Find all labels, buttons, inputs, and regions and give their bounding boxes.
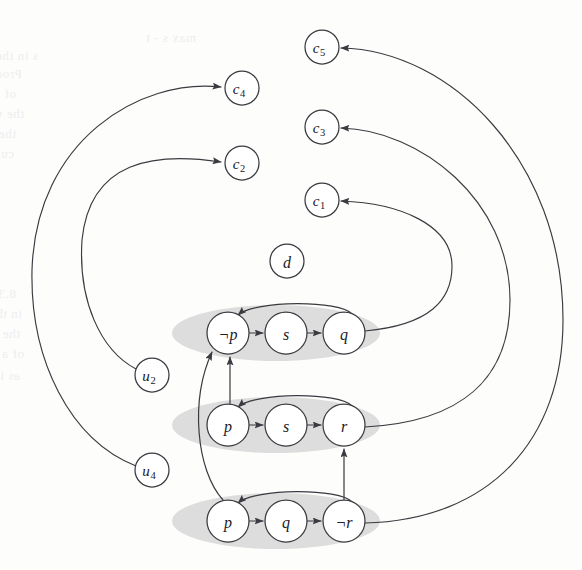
node-label-d: d — [283, 254, 292, 271]
node-label-subscript-c3: 3 — [320, 127, 325, 138]
node-n3b[interactable]: q — [265, 500, 307, 542]
edge-n2c-to-c3 — [341, 128, 510, 427]
node-c1[interactable]: c1 — [305, 183, 339, 217]
node-c4[interactable]: c4 — [225, 71, 259, 105]
node-c2[interactable]: c2 — [225, 146, 259, 180]
node-label-n3a: p — [223, 514, 232, 532]
node-u2[interactable]: u2 — [135, 358, 169, 392]
node-n1c[interactable]: q — [323, 312, 365, 354]
node-label-subscript-u4: 4 — [150, 470, 156, 481]
node-n3a[interactable]: p — [207, 500, 249, 542]
node-label-base-c2: c — [233, 156, 240, 172]
node-label-base-n1c: q — [340, 326, 348, 344]
node-n2c[interactable]: r — [323, 404, 365, 446]
graph-canvas: c5c3c1c4c2du2u4¬psqpsrpq¬r — [0, 0, 582, 570]
node-label-base-u2: u — [142, 368, 150, 384]
node-d[interactable]: d — [270, 244, 304, 278]
node-label-base-n3c: ¬r — [335, 514, 353, 531]
node-n3c[interactable]: ¬r — [323, 500, 365, 542]
node-label-subscript-c4: 4 — [240, 88, 246, 99]
node-n1b[interactable]: s — [265, 312, 307, 354]
node-c3[interactable]: c3 — [305, 110, 339, 144]
node-label-n2a: p — [223, 418, 232, 436]
node-label-subscript-c2: 2 — [240, 163, 245, 174]
node-label-n3b: q — [282, 514, 290, 532]
node-n2a[interactable]: p — [207, 404, 249, 446]
node-label-base-n3b: q — [282, 514, 290, 532]
node-label-base-c4: c — [233, 81, 240, 97]
node-n2b[interactable]: s — [265, 404, 307, 446]
node-c5[interactable]: c5 — [305, 30, 339, 64]
node-label-n2b: s — [283, 418, 289, 435]
node-label-base-c1: c — [313, 193, 320, 209]
graph-figure: max s - ts in the in flowProof. The to b… — [0, 0, 582, 570]
node-label-base-n2c: r — [341, 418, 348, 435]
edge-n3c-to-c5 — [341, 48, 563, 523]
edge-n1c-to-c1 — [341, 201, 452, 331]
node-label-base-n2a: p — [223, 418, 232, 436]
node-label-base-c3: c — [313, 120, 320, 136]
node-label-subscript-c1: 1 — [320, 200, 325, 211]
node-layer: c5c3c1c4c2du2u4¬psqpsrpq¬r — [135, 30, 365, 542]
node-label-n1c: q — [340, 326, 348, 344]
node-label-subscript-u2: 2 — [150, 375, 155, 386]
node-n1a[interactable]: ¬p — [207, 312, 249, 354]
node-label-base-d: d — [283, 254, 292, 271]
node-label-n1b: s — [283, 326, 289, 343]
node-u4[interactable]: u4 — [135, 453, 169, 487]
node-label-subscript-c5: 5 — [320, 47, 325, 58]
node-label-base-n2b: s — [283, 418, 289, 435]
node-label-base-c5: c — [313, 40, 320, 56]
node-label-n1a: ¬p — [219, 326, 238, 344]
node-label-n3c: ¬r — [335, 514, 353, 531]
node-label-base-n3a: p — [223, 514, 232, 532]
node-label-base-n1a: ¬p — [219, 326, 238, 344]
node-label-n2c: r — [341, 418, 348, 435]
node-label-base-n1b: s — [283, 326, 289, 343]
node-label-base-u4: u — [142, 463, 150, 479]
